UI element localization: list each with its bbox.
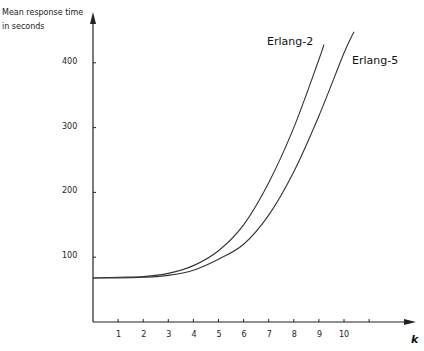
y-axis-title-line1: Mean response time [2, 8, 83, 17]
series-line-erlang-5 [93, 32, 354, 278]
y-tick-label: 100 [62, 251, 77, 260]
series-label-erlang-2: Erlang-2 [267, 35, 313, 48]
y-axis-title-line2: in seconds [2, 22, 45, 31]
curves [93, 32, 354, 278]
x-tick-label: 7 [267, 330, 272, 339]
x-tick-label: 9 [317, 330, 322, 339]
x-tick-label: 6 [242, 330, 247, 339]
y-axis-arrow-icon [90, 12, 96, 24]
chart-canvas [0, 0, 424, 351]
series-line-erlang-2 [93, 45, 324, 278]
x-tick-label: 2 [141, 330, 146, 339]
x-tick-label: 5 [217, 330, 222, 339]
x-axis-title: k [411, 333, 418, 346]
x-tick-label: 4 [191, 330, 196, 339]
x-tick-label: 3 [166, 330, 171, 339]
x-axis-arrow-icon [404, 319, 416, 325]
y-tick-label: 200 [62, 186, 77, 195]
x-tick-label: 8 [292, 330, 297, 339]
series-label-erlang-5: Erlang-5 [352, 54, 398, 67]
x-tick-label: 1 [116, 330, 121, 339]
y-tick-label: 400 [62, 57, 77, 66]
y-tick-label: 300 [62, 122, 77, 131]
x-tick-label: 10 [339, 330, 349, 339]
